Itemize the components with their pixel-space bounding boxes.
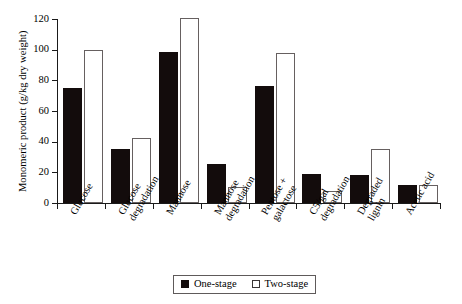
x-axis-tick	[201, 204, 202, 209]
bar	[63, 88, 82, 203]
bar	[159, 52, 178, 203]
legend-entry: One-stage	[181, 278, 237, 290]
bar-group	[344, 19, 392, 203]
y-axis-tick-label: 0	[44, 197, 49, 209]
bar-group	[153, 19, 201, 203]
legend-label: Two-stage	[265, 278, 309, 290]
bar	[180, 18, 199, 203]
bar-group	[57, 19, 105, 203]
y-axis-tick-label: 60	[39, 105, 50, 117]
x-axis-tick	[153, 204, 154, 209]
y-axis-tick-label: 120	[33, 13, 49, 25]
x-axis-tick	[57, 204, 58, 209]
x-axis-tick	[296, 204, 297, 209]
bar-group	[249, 19, 297, 203]
legend-entry: Two-stage	[252, 278, 309, 290]
x-axis-tick	[344, 204, 345, 209]
legend-label: One-stage	[194, 278, 237, 290]
x-axis-tick	[440, 204, 441, 209]
legend-swatch-filled	[181, 280, 189, 288]
bar	[84, 50, 103, 203]
y-axis-tick-label: 80	[39, 74, 50, 86]
y-axis-tick-label: 20	[39, 166, 50, 178]
y-axis-title: Monomeric product (g/kg dry weight)	[18, 19, 29, 203]
y-axis-tick-label: 100	[33, 43, 49, 55]
x-axis-tick	[392, 204, 393, 209]
x-axis-tick	[249, 204, 250, 209]
y-axis-tick-label: 40	[39, 135, 50, 147]
legend: One-stageTwo-stage	[173, 275, 316, 294]
bar	[255, 86, 274, 203]
bar-chart-figure: Monomeric product (g/kg dry weight) 0204…	[0, 0, 462, 304]
x-axis-tick	[105, 204, 106, 209]
legend-swatch-hollow	[252, 280, 260, 288]
